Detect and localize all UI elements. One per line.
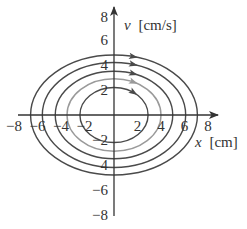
x-axis-unit: [cm] [209, 134, 237, 150]
y-tick-label: 6 [101, 32, 109, 48]
x-axis-var: x [194, 134, 202, 150]
direction-arrow-icon [128, 87, 139, 97]
direction-arrow-icon [128, 77, 139, 86]
x-tick-label: 4 [157, 118, 165, 134]
y-axis-var: v [124, 17, 131, 33]
y-tick-label: −2 [92, 132, 108, 148]
y-tick-label: 2 [101, 82, 109, 98]
y-axis-label: v [cm/s] [124, 17, 177, 33]
x-axis-label: x [cm] [194, 134, 238, 150]
y-tick-label: −8 [92, 207, 108, 223]
y-tick-label: 4 [101, 57, 109, 73]
y-tick-label: −6 [92, 182, 108, 198]
y-axis-unit: [cm/s] [138, 17, 176, 33]
x-tick-label: 8 [204, 118, 212, 134]
direction-arrow-icon [128, 69, 138, 78]
phase-portrait-chart: −8−6−4−22468 8642−24−6−8 v [cm/s] x [cm] [0, 0, 247, 229]
x-tick-label: −6 [30, 118, 46, 134]
y-tick-label: 4 [101, 157, 109, 173]
x-tick-label: −2 [77, 118, 93, 134]
x-tick-label: −4 [53, 118, 69, 134]
x-tick-label: 2 [134, 118, 142, 134]
x-tick-label: 6 [181, 118, 189, 134]
y-tick-label: 8 [101, 9, 109, 25]
x-tick-labels: −8−6−4−22468 [6, 118, 212, 134]
y-tick-labels: 8642−24−6−8 [92, 9, 108, 223]
x-tick-label: −8 [6, 118, 22, 134]
